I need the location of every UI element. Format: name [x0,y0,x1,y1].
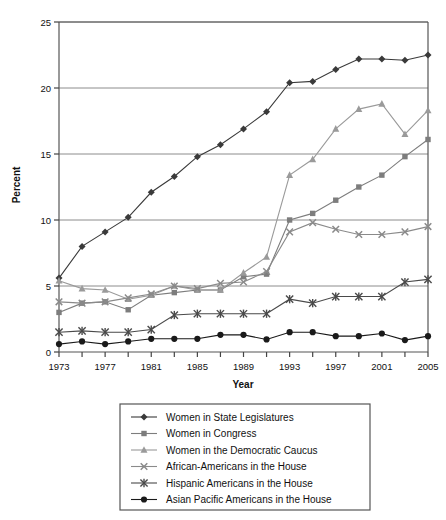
legend-label: Women in Congress [166,428,256,439]
marker-circle [148,336,154,342]
x-tick-label-1977: 1977 [95,361,116,372]
marker-circle [141,496,147,502]
marker-square [172,290,177,295]
x-tick-label-2005: 2005 [417,361,438,372]
marker-circle [310,329,316,335]
legend-label: African-Americans in the House [166,461,307,472]
marker-circle [263,336,269,342]
legend-label: Asian Pacific Americans in the House [166,494,332,505]
marker-circle [425,333,431,339]
marker-square [125,307,130,312]
marker-circle [379,330,385,336]
marker-circle [171,336,177,342]
marker-circle [287,329,293,335]
y-tick-label-5: 5 [46,281,51,292]
marker-circle [102,341,108,347]
marker-square [425,137,430,142]
x-tick-label-1973: 1973 [48,361,69,372]
line-chart: 0510152025 19731977198119851989199319972… [0,0,446,520]
x-tick-label-1997: 1997 [325,361,346,372]
marker-circle [125,338,131,344]
legend-label: Hispanic Americans in the House [166,478,313,489]
marker-square [287,217,292,222]
marker-circle [356,333,362,339]
y-tick-label-10: 10 [40,215,51,226]
marker-square [356,184,361,189]
marker-circle [217,332,223,338]
x-axis-label: Year [232,379,253,390]
marker-circle [79,338,85,344]
marker-circle [240,332,246,338]
chart-legend: Women in State LegislaturesWomen in Cong… [120,404,370,510]
x-tick-label-1989: 1989 [233,361,254,372]
x-tick-label-2001: 2001 [371,361,392,372]
legend-label: Women in State Legislatures [166,412,294,423]
marker-circle [194,336,200,342]
y-tick-label-20: 20 [40,83,51,94]
marker-square [141,431,146,436]
marker-square [56,310,61,315]
marker-square [333,198,338,203]
marker-square [310,211,315,216]
chart-figure: 0510152025 19731977198119851989199319972… [0,0,446,520]
x-tick-label-1993: 1993 [279,361,300,372]
marker-square [379,172,384,177]
marker-square [402,154,407,159]
marker-circle [333,333,339,339]
marker-circle [56,341,62,347]
x-tick-label-1985: 1985 [187,361,208,372]
legend-label: Women in the Democratic Caucus [166,445,318,456]
y-tick-label-15: 15 [40,149,51,160]
x-tick-label-1981: 1981 [141,361,162,372]
y-axis-label: Percent [11,166,22,203]
marker-circle [402,337,408,343]
y-tick-label-25: 25 [40,17,51,28]
y-tick-label-0: 0 [46,347,51,358]
